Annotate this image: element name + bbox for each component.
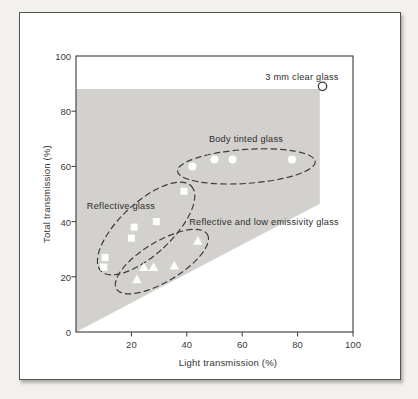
label-body-tinted-glass: Body tinted glass	[209, 134, 283, 144]
figure-page: 20406080100 020406080100 3 mm clear glas…	[0, 0, 418, 399]
marker-reflective-glass	[181, 188, 188, 195]
marker-body-tinted-glass	[211, 156, 219, 164]
x-tick-label-60: 60	[237, 339, 248, 350]
marker-reflective-glass	[131, 224, 138, 231]
marker-3-mm-clear-glass	[318, 82, 326, 90]
x-tick-label-40: 40	[182, 339, 193, 350]
marker-reflective-glass	[102, 254, 109, 261]
y-tick-label-100: 100	[39, 51, 71, 62]
y-tick-label-0: 0	[39, 327, 71, 338]
label-reflective-and-low-emissivity-glass: Reflective and low emissivity glass	[189, 217, 339, 227]
marker-reflective-glass	[100, 264, 107, 271]
y-tick-label-20: 20	[39, 271, 71, 282]
x-axis-title: Light transmission (%)	[179, 357, 277, 368]
marker-body-tinted-glass	[288, 156, 296, 164]
marker-reflective-glass	[128, 235, 135, 242]
label-3-mm-clear-glass: 3 mm clear glass	[265, 72, 338, 82]
marker-reflective-glass	[153, 218, 160, 225]
x-tick-label-80: 80	[292, 339, 303, 350]
marker-body-tinted-glass	[188, 162, 196, 170]
x-tick-label-100: 100	[345, 339, 361, 350]
y-axis-title: Total transmission (%)	[41, 145, 52, 243]
marker-body-tinted-glass	[229, 156, 237, 164]
x-tick-label-20: 20	[126, 339, 137, 350]
y-tick-label-80: 80	[39, 106, 71, 117]
label-reflective-glass: Reflective glass	[87, 201, 155, 211]
